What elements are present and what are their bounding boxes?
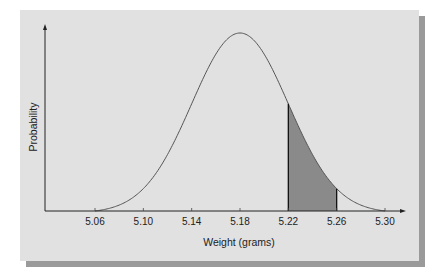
x-axis-title: Weight (grams) <box>203 236 275 248</box>
y-axis-title: Probability <box>27 102 39 152</box>
x-tick-label: 5.18 <box>230 216 250 227</box>
x-tick-label: 5.10 <box>134 216 154 227</box>
x-tick-label: 5.26 <box>327 216 347 227</box>
normal-distribution-chart: 5.065.105.145.185.225.265.30 Weight (gra… <box>0 0 445 273</box>
x-tick-label: 5.30 <box>375 216 395 227</box>
x-tick-label: 5.14 <box>182 216 202 227</box>
x-tick-label: 5.22 <box>279 216 299 227</box>
x-tick-label: 5.06 <box>85 216 105 227</box>
